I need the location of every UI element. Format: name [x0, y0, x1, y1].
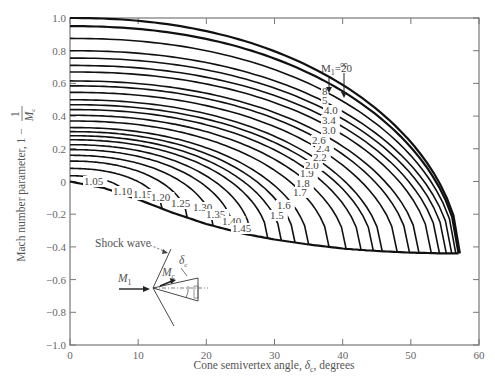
- curve-label: 1.05: [84, 175, 104, 187]
- y-tick-label: −0.2: [46, 208, 66, 220]
- mach-curve: [70, 38, 456, 253]
- y-tick-label: 0.4: [52, 110, 66, 122]
- x-tick-label: 60: [474, 349, 486, 361]
- axis-tick-labels: 01020304050601.00.80.60.40.20−0.2−0.4−0.…: [46, 12, 485, 361]
- svg-text:δc: δc: [179, 254, 187, 269]
- mach-curves: [70, 18, 460, 253]
- curve-label: 1.45: [232, 222, 252, 234]
- curve-label: 1.10: [113, 185, 133, 197]
- x-tick-label: 10: [133, 349, 145, 361]
- x-axis-title: Cone semivertex angle, δc, degrees: [194, 359, 355, 374]
- svg-text:Shock wave: Shock wave: [95, 237, 151, 249]
- y-tick-label: 0: [61, 176, 67, 188]
- curve-label: 8: [322, 85, 328, 97]
- curve-label: 1.20: [151, 191, 171, 203]
- curve-label: 1.25: [171, 197, 191, 209]
- curve-label: 1.6: [277, 199, 291, 211]
- x-tick-label: 50: [405, 349, 417, 361]
- cone-flow-chart: 01020304050601.00.80.60.40.20−0.2−0.4−0.…: [0, 0, 495, 383]
- x-tick-label: 0: [67, 349, 73, 361]
- y-tick-label: −0.8: [46, 306, 66, 318]
- svg-text:Mc: Mc: [161, 266, 176, 281]
- y-tick-label: 0.6: [52, 77, 66, 89]
- y-tick-label: 0.2: [52, 143, 66, 155]
- y-tick-label: −1.0: [46, 339, 66, 351]
- y-tick-label: 1.0: [52, 12, 66, 24]
- mach-curve: [70, 121, 329, 247]
- y-tick-label: −0.4: [46, 241, 66, 253]
- y-axis-title: Mach number parameter, 1 − 1 Mc: [9, 106, 37, 262]
- svg-text:1: 1: [9, 111, 21, 117]
- svg-text:Mach number parameter, 1 −: Mach number parameter, 1 −: [15, 128, 28, 261]
- cone-inset-diagram: Shock wave M1 Mc δc: [95, 237, 208, 326]
- m1-infinity-annotation: ∞: [340, 58, 348, 98]
- svg-text:Mc: Mc: [23, 109, 37, 123]
- svg-text:∞: ∞: [340, 58, 348, 70]
- y-tick-label: −0.6: [46, 274, 66, 286]
- svg-text:M1: M1: [117, 272, 132, 287]
- y-tick-label: 0.8: [52, 45, 66, 57]
- curve-label: 1.15: [133, 188, 153, 200]
